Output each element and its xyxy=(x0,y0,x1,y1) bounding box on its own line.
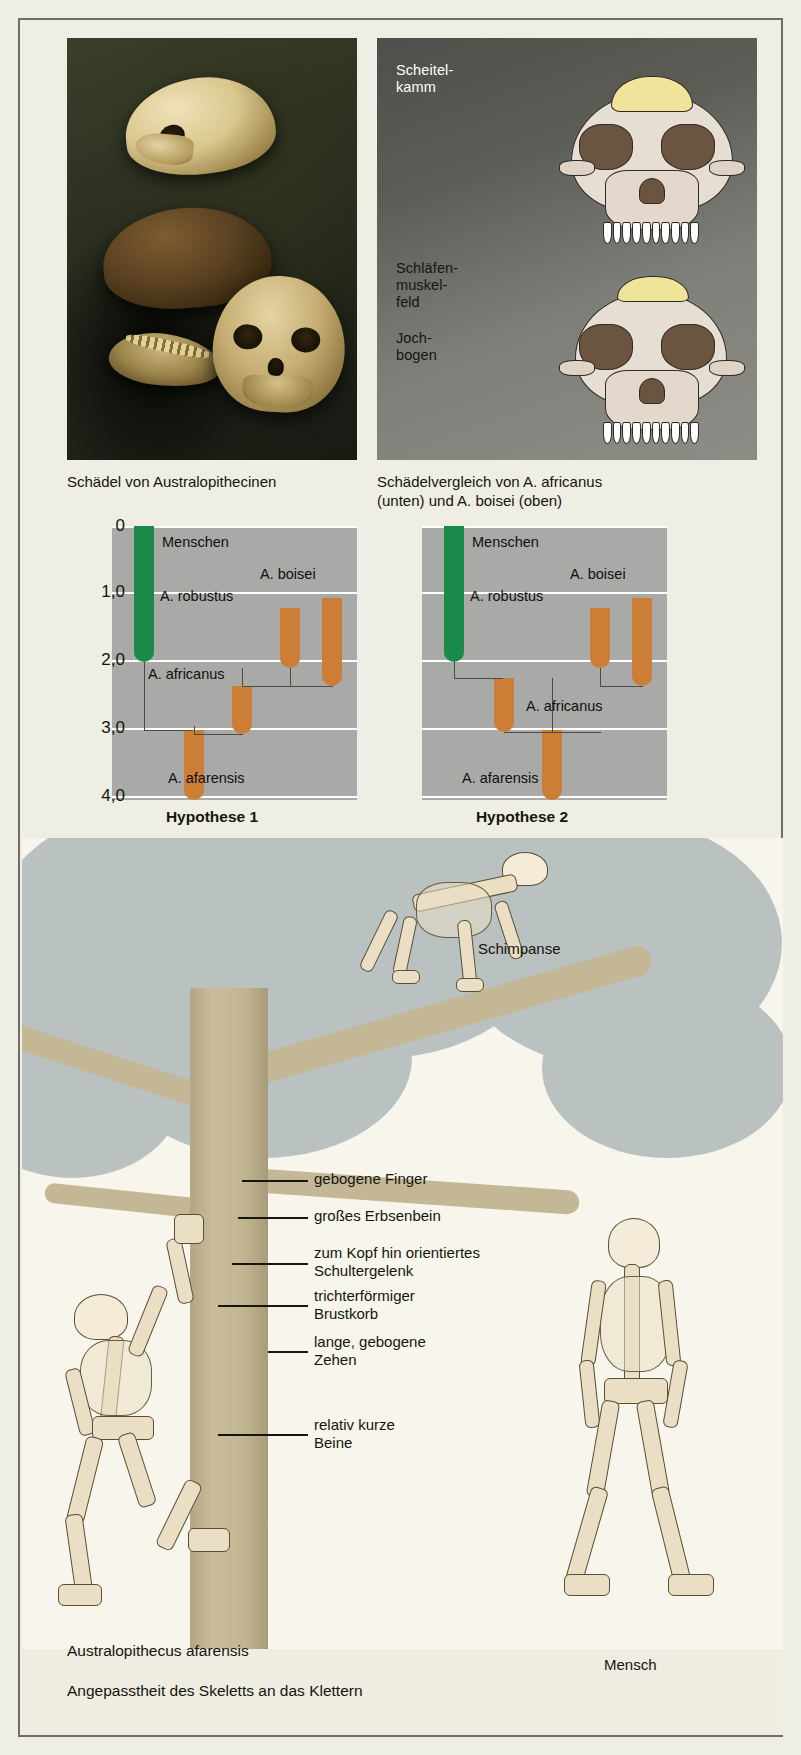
label-sagittal-crest: Scheitel- kamm xyxy=(396,62,453,96)
tree-branch xyxy=(44,1182,195,1218)
plot-area: Menschen A. boisei A. robustus A. africa… xyxy=(112,526,357,800)
species-label-africanus: A. africanus xyxy=(526,698,603,714)
rib-cage xyxy=(416,882,492,938)
pelvis xyxy=(604,1378,668,1404)
plot-area: Menschen A. boisei A. robustus A. africa… xyxy=(422,526,667,800)
gridline-4 xyxy=(112,796,357,798)
hand-right xyxy=(456,978,484,992)
diagram-caption: Schädelvergleich von A. africanus (unten… xyxy=(377,472,602,510)
hand-left xyxy=(392,970,420,984)
skull xyxy=(608,1218,660,1268)
species-label-boisei: A. boisei xyxy=(260,566,316,582)
callout-large-pisiform: großes Erbsenbein xyxy=(314,1207,441,1225)
bar-robustus xyxy=(280,608,300,668)
leader-line xyxy=(238,1217,308,1219)
species-label-boisei: A. boisei xyxy=(570,566,626,582)
teeth-row xyxy=(603,422,699,444)
eye-socket-right-icon xyxy=(291,327,321,353)
label-schimpanse: Schimpanse xyxy=(478,940,561,958)
skull-comparison-diagram: Scheitel- kamm Schläfen- muskel- feld Jo… xyxy=(377,38,757,460)
bar-menschen xyxy=(134,526,154,662)
nasal-aperture xyxy=(639,178,665,204)
lineage-link-afarensis xyxy=(194,726,243,735)
figure-frame: Scheitel- kamm Schläfen- muskel- feld Jo… xyxy=(18,18,783,1737)
teeth-row xyxy=(603,222,699,244)
foot-left xyxy=(564,1574,610,1596)
nasal-aperture-icon xyxy=(267,357,284,376)
lineage-link-robustus xyxy=(600,668,643,687)
hand-right xyxy=(174,1214,204,1244)
orbit-right xyxy=(661,324,715,370)
zygomatic-arch-left xyxy=(559,160,595,176)
caption-adaptation: Angepasstheit des Skeletts an das Klette… xyxy=(67,1682,363,1700)
foot-left xyxy=(58,1584,102,1606)
zygomatic-arch-right xyxy=(709,360,745,376)
species-label-menschen: Menschen xyxy=(162,534,229,550)
lineage-link-africanus xyxy=(242,668,291,687)
foot-right xyxy=(668,1574,714,1596)
leader-line xyxy=(242,1180,308,1182)
callout-shoulder-joint: zum Kopf hin orientiertes Schultergelenk xyxy=(314,1244,480,1280)
callout-short-legs: relativ kurze Beine xyxy=(314,1416,395,1452)
ytick-4: 4,0 xyxy=(83,786,125,806)
ytick-3: 3,0 xyxy=(83,718,125,738)
australopithecine-skulls-photo xyxy=(67,38,357,460)
lineage-link-afarensis xyxy=(504,732,553,733)
nasal-aperture xyxy=(639,378,665,404)
leader-line xyxy=(218,1434,308,1436)
species-label-menschen: Menschen xyxy=(472,534,539,550)
sagittal-crest-shape xyxy=(611,76,693,112)
caption-species: Australopithecus afarensis xyxy=(67,1642,249,1660)
lineage-link-robustus xyxy=(290,668,333,687)
leader-line xyxy=(232,1263,308,1265)
canopy-shape xyxy=(542,978,783,1158)
callout-curved-fingers: gebogene Finger xyxy=(314,1170,427,1188)
label-mensch: Mensch xyxy=(604,1656,657,1674)
species-label-africanus: A. africanus xyxy=(148,666,225,682)
arm-right-lower xyxy=(165,1237,194,1305)
skull xyxy=(74,1294,128,1340)
teeth-icon xyxy=(125,331,212,361)
ytick-2: 2,0 xyxy=(83,650,125,670)
photo-caption: Schädel von Australopithecinen xyxy=(67,472,276,491)
callout-funnel-thorax: trichterförmiger Brustkorb xyxy=(314,1287,415,1323)
tree-climbing-scene: Schimpanse Mensch gebogene Finger großes… xyxy=(22,838,783,1735)
leader-line xyxy=(268,1351,308,1353)
australopithecus-skeleton xyxy=(62,1228,292,1628)
human-skeleton xyxy=(552,1218,752,1638)
figure-page: Scheitel- kamm Schläfen- muskel- feld Jo… xyxy=(0,0,801,1755)
tibia-right xyxy=(650,1485,691,1584)
ytick-0: 0 xyxy=(83,516,125,536)
label-temporal-muscle-field: Schläfen- muskel- feld xyxy=(396,260,458,311)
bar-afarensis xyxy=(542,730,562,800)
ytick-1: 1,0 xyxy=(83,582,125,602)
zygomatic-arch-right xyxy=(709,160,745,176)
bar-africanus xyxy=(494,678,514,732)
tibia-left xyxy=(565,1485,609,1584)
eye-socket-left-icon xyxy=(233,324,263,350)
chart-title-hypothese-1: Hypothese 1 xyxy=(67,808,357,826)
skull-side-view xyxy=(120,70,279,181)
arm-right-upper xyxy=(127,1284,170,1359)
leg-left-upper xyxy=(66,1435,105,1525)
zygomatic-arch-left xyxy=(559,360,595,376)
leg-right-upper xyxy=(117,1431,158,1509)
species-label-afarensis: A. afarensis xyxy=(462,770,539,786)
leader-line xyxy=(218,1305,308,1307)
species-label-robustus: A. robustus xyxy=(470,588,543,604)
jaw-fragment xyxy=(106,326,224,393)
bar-menschen xyxy=(444,526,464,662)
lineage-link-menschen xyxy=(454,662,503,679)
bar-afarensis xyxy=(184,730,204,800)
forelimb-left xyxy=(392,915,418,977)
label-zygomatic-arch: Joch- bogen xyxy=(396,330,437,364)
foot-right xyxy=(188,1528,230,1552)
sagittal-crest-shape xyxy=(617,276,689,302)
forearm-left xyxy=(578,1359,600,1428)
maxilla xyxy=(242,374,314,410)
species-label-afarensis: A. afarensis xyxy=(168,770,245,786)
chart-title-hypothese-2: Hypothese 2 xyxy=(377,808,667,826)
orbit-right xyxy=(661,124,715,170)
eye-socket-icon xyxy=(158,122,187,148)
species-label-robustus: A. robustus xyxy=(160,588,233,604)
